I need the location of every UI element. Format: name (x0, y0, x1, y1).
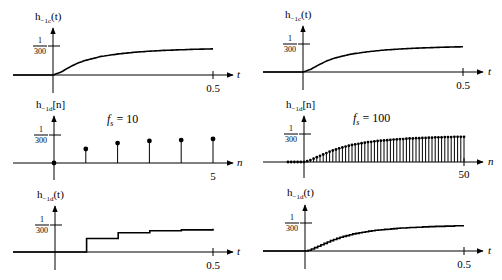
discrete-samples (287, 135, 466, 163)
sample-dot (351, 144, 354, 147)
x-axis-label: t (237, 68, 241, 80)
y-tick-numerator: 1 (38, 36, 42, 45)
sample-dot (459, 135, 462, 138)
panel-bottom-right: h−1d(t) 1 300 0.5 t (263, 186, 492, 270)
sample-dot (367, 141, 370, 144)
y-axis-label: h−1d(t) (37, 188, 64, 203)
y-axis-label: h−1d(t) (287, 186, 314, 201)
y-tick-numerator: 1 (289, 124, 293, 133)
panel-middle-right: h−1d[n] 1 300 50 n fs = 100 (263, 98, 494, 180)
sample-dot (338, 147, 341, 150)
panel-top-right: h−1c(t) 1 300 0.5 t (263, 8, 492, 91)
sample-dot (440, 136, 443, 139)
x-tick-label: 0.5 (457, 258, 471, 270)
sample-dot (437, 136, 440, 139)
sampling-rate-annotation: fs = 10 (107, 112, 138, 128)
discrete-samples (52, 137, 216, 166)
sample-dot (303, 161, 306, 164)
sample-dot (379, 139, 382, 142)
sample-dot (287, 161, 290, 164)
sample-dot (347, 144, 350, 147)
x-axis-label: t (488, 65, 492, 77)
sample-dot (415, 137, 418, 140)
sample-dot (402, 138, 405, 141)
sample-dot (431, 136, 434, 139)
sample-dot (315, 156, 318, 159)
y-axis-label: h−1d[n] (286, 98, 315, 113)
sampling-rate-annotation: fs = 100 (353, 111, 390, 127)
y-tick-denominator: 300 (36, 226, 48, 235)
sample-dot (52, 161, 57, 166)
y-axis-label: h−1c(t) (35, 10, 62, 25)
sample-dot (389, 138, 392, 141)
sample-dot (306, 160, 309, 163)
sample-dot (331, 149, 334, 152)
sample-dot (418, 137, 421, 140)
sample-dot (370, 140, 373, 143)
sample-dot (363, 141, 366, 144)
sample-dot (115, 141, 120, 146)
sample-dot (312, 157, 315, 160)
y-tick-denominator: 300 (34, 47, 46, 56)
x-tick-label: 0.5 (206, 82, 220, 94)
sample-dot (319, 154, 322, 157)
sample-dot (360, 142, 363, 145)
sample-dot (357, 142, 360, 145)
x-tick-label: 0.5 (206, 259, 220, 271)
sample-dot (373, 140, 376, 143)
sample-dot (309, 159, 312, 162)
sample-dot (453, 135, 456, 138)
y-tick-denominator: 300 (286, 224, 298, 233)
sample-dot (328, 150, 331, 153)
sample-dot (447, 136, 450, 139)
sample-dot (179, 138, 184, 143)
x-axis-label: n (488, 155, 494, 167)
sample-dot (335, 148, 338, 151)
x-tick-label: 50 (459, 168, 471, 180)
panel-middle-left: h−1d[n] 1 300 5 n fs = 10 (13, 98, 243, 182)
y-tick-numerator: 1 (39, 125, 43, 134)
sample-dot (325, 152, 328, 155)
figure: h−1c(t) 1 300 0.5 t h−1c(t) 1 300 0.5 t … (0, 0, 502, 280)
sample-dot (344, 145, 347, 148)
sample-dot (424, 137, 427, 140)
sample-dot (147, 138, 152, 143)
sample-dot (296, 161, 299, 164)
sample-dot (354, 143, 357, 146)
sample-dot (83, 147, 88, 152)
x-tick-label: 5 (210, 170, 216, 182)
sample-dot (299, 161, 302, 164)
y-axis-label: h−1c(t) (285, 8, 312, 23)
sample-dot (405, 137, 408, 140)
y-tick-denominator: 300 (285, 135, 297, 144)
panel-bottom-left: h−1d(t) 1 300 0.5 t (13, 188, 241, 271)
y-tick-denominator: 300 (35, 136, 47, 145)
sample-dot (443, 136, 446, 139)
sample-dot (341, 146, 344, 149)
sample-dot (383, 139, 386, 142)
sample-dot (408, 137, 411, 140)
sample-dot (421, 137, 424, 140)
sample-dot (293, 161, 296, 164)
sample-dot (322, 153, 325, 156)
y-axis-label: h−1d[n] (36, 98, 65, 113)
sample-dot (392, 138, 395, 141)
sample-dot (376, 140, 379, 143)
sample-dot (395, 138, 398, 141)
panel-top-left: h−1c(t) 1 300 0.5 t (13, 10, 241, 94)
sample-dot (450, 136, 453, 139)
sample-dot (427, 136, 430, 139)
sample-dot (411, 137, 414, 140)
x-axis-label: t (488, 244, 492, 256)
x-axis-label: t (237, 245, 241, 257)
sample-dot (211, 137, 216, 142)
sample-dot (456, 135, 459, 138)
sample-dot (290, 161, 293, 164)
sample-dot (434, 136, 437, 139)
y-tick-numerator: 1 (288, 34, 292, 43)
sample-dot (399, 138, 402, 141)
y-tick-numerator: 1 (290, 213, 294, 222)
x-tick-label: 0.5 (456, 79, 470, 91)
y-tick-denominator: 300 (284, 45, 296, 54)
sample-dot (386, 139, 389, 142)
